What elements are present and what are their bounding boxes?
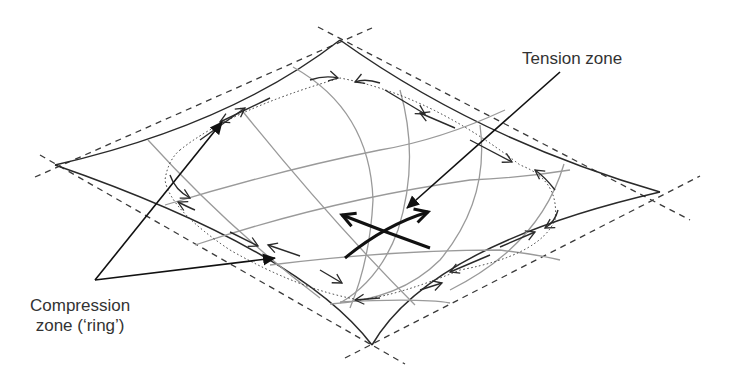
compression-label-line2: zone (‘ring’): [30, 316, 130, 336]
compression-label-line1: Compression: [30, 296, 130, 316]
tension-arrows: [342, 212, 430, 258]
compression-zone-label: Compression zone (‘ring’): [30, 296, 130, 336]
compression-ring: [165, 78, 556, 300]
tension-zone-label: Tension zone: [522, 49, 622, 69]
surface-grid: [148, 67, 570, 308]
diagram-canvas: Tension zone Compression zone (‘ring’): [0, 0, 738, 380]
